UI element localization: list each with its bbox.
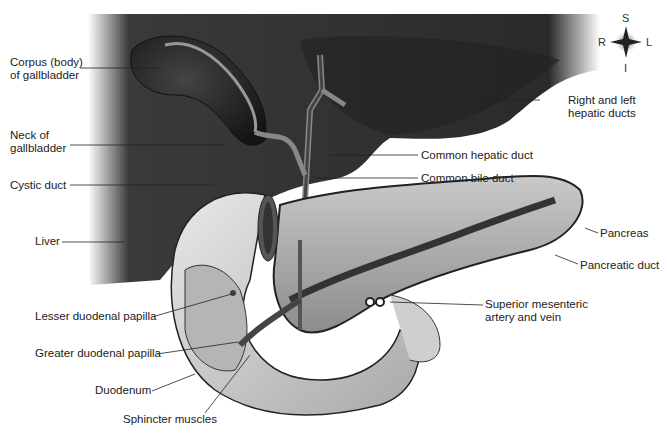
compass-rose-icon	[610, 26, 642, 58]
label-neck-gallbladder: Neck of gallbladder	[10, 129, 66, 155]
label-pancreatic-duct: Pancreatic duct	[580, 259, 659, 272]
label-hepatic-ducts: Right and left hepatic ducts	[568, 94, 636, 120]
label-sphincter-muscles: Sphincter muscles	[123, 413, 217, 426]
label-liver: Liver	[35, 235, 60, 248]
label-common-hepatic-duct: Common hepatic duct	[421, 149, 533, 162]
compass-superior: S	[622, 12, 629, 24]
label-pancreas: Pancreas	[600, 227, 649, 240]
label-greater-duodenal-papilla: Greater duodenal papilla	[35, 347, 161, 360]
anatomy-figure: S I R L Corpus (body) of gallbladder Nec…	[0, 0, 667, 440]
label-corpus-gallbladder: Corpus (body) of gallbladder	[10, 56, 83, 82]
compass-left: L	[646, 36, 652, 48]
label-lesser-duodenal-papilla: Lesser duodenal papilla	[35, 310, 156, 323]
compass-inferior: I	[624, 62, 627, 74]
label-cystic-duct: Cystic duct	[10, 179, 66, 192]
label-superior-mesenteric-vessels: Superior mesenteric artery and vein	[485, 298, 588, 324]
label-common-bile-duct: Common bile duct	[421, 172, 514, 185]
anatomy-illustration	[0, 0, 667, 440]
compass-right: R	[598, 36, 606, 48]
label-duodenum: Duodenum	[95, 384, 151, 397]
